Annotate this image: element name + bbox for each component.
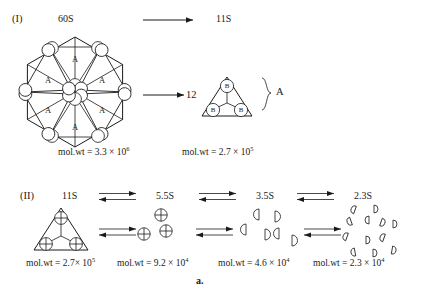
molwt-exponent: 5 xyxy=(92,256,95,263)
molwt-prefix: mol.wt = xyxy=(313,258,350,268)
molwt-prefix: mol.wt = xyxy=(218,258,255,268)
molwt-5.5S: mol.wt = 9.2 × 104 xyxy=(117,259,188,269)
figure-canvas: (I) 60S 11S xyxy=(0,0,425,292)
molwt-exponent: 4 xyxy=(286,256,289,263)
quarter-disc-fragment xyxy=(373,249,377,257)
quarter-disc-fragment xyxy=(365,216,369,224)
quarter-disc-fragment xyxy=(393,220,397,228)
quarter-disc-fragment xyxy=(366,236,370,244)
molwt-prefix: mol.wt = xyxy=(117,258,154,268)
molwt-mantissa: 9.2 × 10 xyxy=(154,258,185,268)
molwt-exponent: 4 xyxy=(185,256,188,263)
molwt-mantissa: 2.7× 10 xyxy=(63,258,92,268)
molwt-exponent: 4 xyxy=(381,256,384,263)
glyph-2.3S-twelve-quarter-discs xyxy=(0,0,425,292)
molwt-mantissa: 2.3 × 10 xyxy=(350,258,381,268)
quarter-disc-fragment xyxy=(350,248,355,257)
molwt-3.5S: mol.wt = 4.6 × 104 xyxy=(218,259,289,269)
molwt-prefix: mol.wt = xyxy=(26,258,63,268)
quarter-disc-fragment xyxy=(346,217,352,226)
quarter-disc-fragment xyxy=(350,205,356,214)
molwt-11S-rowII: mol.wt = 2.7× 105 xyxy=(26,259,95,269)
quarter-disc-fragment xyxy=(380,218,386,227)
quarter-disc-fragment xyxy=(379,233,385,242)
figure-caption: a. xyxy=(196,276,204,286)
molwt-2.3S: mol.wt = 2.3 × 104 xyxy=(313,259,384,269)
quarter-disc-fragment xyxy=(391,246,396,255)
quarter-disc-fragment xyxy=(374,205,378,213)
quarter-disc-fragment xyxy=(342,232,348,241)
molwt-mantissa: 4.6 × 10 xyxy=(255,258,286,268)
